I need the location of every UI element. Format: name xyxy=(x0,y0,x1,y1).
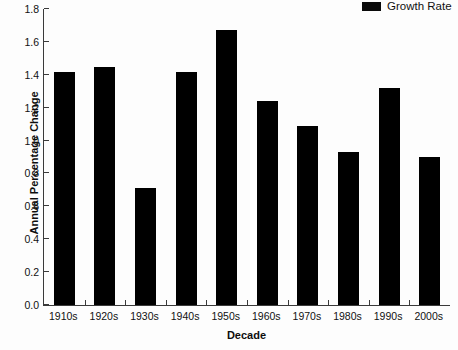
y-axis-tick: 1.2 xyxy=(44,107,49,108)
x-axis-category-label: 1950s xyxy=(205,310,246,322)
y-axis-tick-label: 0.8 xyxy=(24,167,39,179)
plot-area: 0.00.20.40.60.81.01.21.41.61.8 xyxy=(43,9,450,306)
x-axis-tick xyxy=(328,300,329,305)
bar xyxy=(338,152,359,305)
y-axis-tick: 0.8 xyxy=(44,172,49,173)
y-axis-tick-label: 1.2 xyxy=(24,102,39,114)
bar xyxy=(135,188,156,305)
x-axis-category-label: 1910s xyxy=(43,310,84,322)
y-axis-tick: 0.6 xyxy=(44,205,49,206)
bar-chart: Growth Rate Annual Percentage Change Dec… xyxy=(0,0,458,350)
y-axis-tick-label: 0.2 xyxy=(24,266,39,278)
y-axis-tick: 0.4 xyxy=(44,238,49,239)
bar xyxy=(216,30,237,305)
y-axis-tick-label: 1.4 xyxy=(24,69,39,81)
y-axis-tick: 0.2 xyxy=(44,271,49,272)
y-axis-tick-label: 0.4 xyxy=(24,233,39,245)
y-axis-tick-label: 0.6 xyxy=(24,200,39,212)
x-axis-tick xyxy=(369,300,370,305)
y-axis-tick-label: 1.6 xyxy=(24,36,39,48)
bar xyxy=(94,67,115,305)
x-axis-category-label: 1990s xyxy=(368,310,409,322)
x-axis-category-label: 1970s xyxy=(287,310,328,322)
bar xyxy=(297,126,318,305)
x-axis-category-label: 1930s xyxy=(124,310,165,322)
x-axis-category-label: 2000s xyxy=(408,310,449,322)
bar xyxy=(257,101,278,305)
y-axis-tick: 0.0 xyxy=(44,304,49,305)
bar xyxy=(176,72,197,306)
y-axis-tick: 1.4 xyxy=(44,74,49,75)
y-axis-tick-label: 1.8 xyxy=(24,3,39,15)
x-axis-category-label: 1920s xyxy=(84,310,125,322)
y-axis-tick: 1.0 xyxy=(44,140,49,141)
x-axis-tick xyxy=(125,300,126,305)
x-axis-tick xyxy=(409,300,410,305)
x-axis-tick xyxy=(206,300,207,305)
y-axis-tick: 1.6 xyxy=(44,41,49,42)
bar xyxy=(54,72,75,306)
x-axis-category-label: 1960s xyxy=(246,310,287,322)
bar xyxy=(419,157,440,305)
x-axis-category-label: 1940s xyxy=(165,310,206,322)
x-axis-tick xyxy=(85,300,86,305)
y-axis-tick-label: 1.0 xyxy=(24,135,39,147)
x-axis-tick xyxy=(166,300,167,305)
x-axis-tick xyxy=(288,300,289,305)
x-axis-category-label: 1980s xyxy=(327,310,368,322)
x-axis-tick xyxy=(247,300,248,305)
bar xyxy=(379,88,400,305)
x-axis-title: Decade xyxy=(43,329,450,341)
y-axis-tick: 1.8 xyxy=(44,8,49,9)
y-axis-tick-label: 0.0 xyxy=(24,299,39,311)
